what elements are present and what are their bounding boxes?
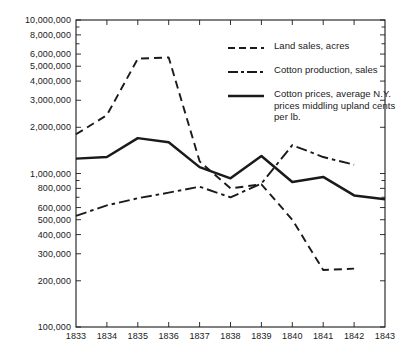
y-tick-label: 800,000 xyxy=(38,183,71,193)
series-line xyxy=(76,138,385,199)
y-tick-label: 8,000,000 xyxy=(30,30,71,40)
legend-item: Cotton prices, average N.Y. prices middl… xyxy=(228,88,403,123)
y-tick-label: 500,000 xyxy=(38,215,71,225)
x-axis-tick-labels: 1833183418351836183718381839184018411842… xyxy=(0,331,413,351)
legend-label: Cotton prices, average N.Y. prices middl… xyxy=(274,88,403,123)
legend-swatch-solid-icon xyxy=(228,92,264,100)
y-tick-label: 200,000 xyxy=(38,276,71,286)
y-tick-label: 1,000,000 xyxy=(30,169,71,179)
legend-item: Cotton production, sales xyxy=(228,64,403,78)
series-line xyxy=(76,145,354,216)
legend-label: Cotton production, sales xyxy=(274,64,403,76)
y-tick-label: 5,000,000 xyxy=(30,61,71,71)
y-tick-label: 10,000,000 xyxy=(25,15,71,25)
y-tick-label: 600,000 xyxy=(38,203,71,213)
x-tick-label: 1843 xyxy=(365,331,405,342)
chart-legend: Land sales, acres Cotton production, sal… xyxy=(228,40,403,133)
y-axis-tick-labels: 100,000200,000300,000400,000500,000600,0… xyxy=(0,0,71,354)
legend-swatch-dashdot-icon xyxy=(228,68,264,76)
y-tick-label: 6,000,000 xyxy=(30,49,71,59)
legend-swatch-dashed-icon xyxy=(228,44,264,52)
legend-label: Land sales, acres xyxy=(274,40,403,52)
y-tick-label: 2,000,000 xyxy=(30,122,71,132)
y-tick-label: 4,000,000 xyxy=(30,76,71,86)
y-tick-label: 400,000 xyxy=(38,230,71,240)
y-tick-label: 3,000,000 xyxy=(30,95,71,105)
legend-item: Land sales, acres xyxy=(228,40,403,54)
chart-figure: 100,000200,000300,000400,000500,000600,0… xyxy=(0,0,413,354)
y-tick-label: 300,000 xyxy=(38,249,71,259)
